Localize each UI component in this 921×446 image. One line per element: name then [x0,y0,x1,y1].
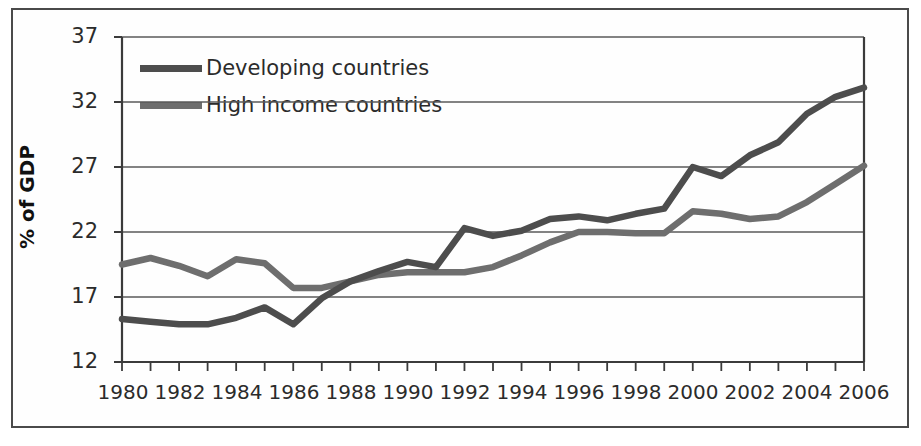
chart-canvas [0,0,921,446]
series-line-developing [122,88,864,325]
y-axis-ticks [114,37,122,362]
series-line-high-income [122,166,864,288]
chart-figure: % of GDP 37 32 27 22 17 12 1980 1982 198… [0,0,921,446]
x-axis-ticks [122,362,864,371]
plot-wrapper: % of GDP 37 32 27 22 17 12 1980 1982 198… [0,0,921,446]
